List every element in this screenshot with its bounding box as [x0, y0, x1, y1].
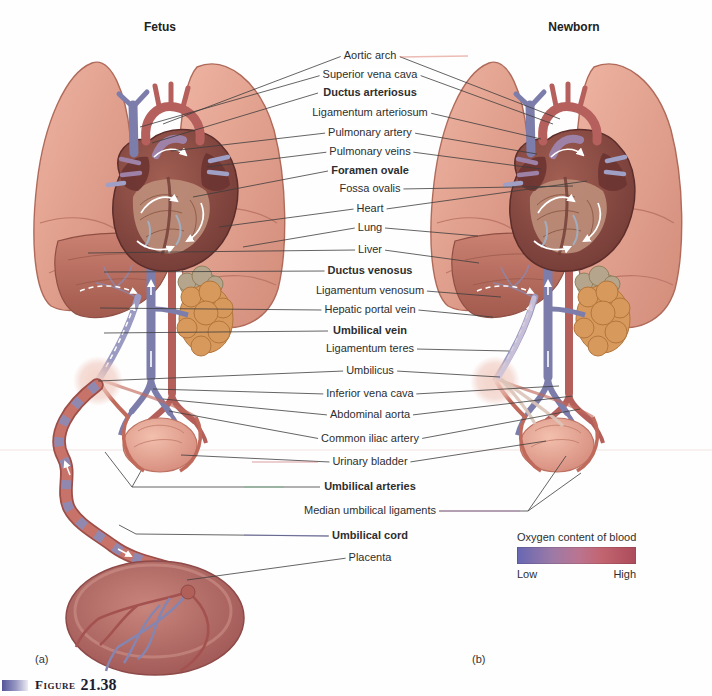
label-umbilical-arteries: Umbilical arteries — [321, 480, 419, 493]
label-urinary-bladder: Urinary bladder — [329, 455, 410, 468]
legend-gradient-bar — [517, 547, 636, 564]
label-umbilical-vein: Umbilical vein — [330, 324, 410, 337]
figure-caption-swatch — [2, 680, 28, 691]
label-superior-vena-cava: Superior vena cava — [320, 68, 421, 81]
label-lung: Lung — [355, 221, 385, 234]
legend-title: Oxygen content of blood — [517, 531, 636, 543]
label-abdominal-aorta: Abdominal aorta — [327, 408, 413, 421]
label-ductus-venosus: Ductus venosus — [325, 264, 416, 277]
newborn-illustration — [431, 62, 682, 472]
legend-low-label: Low — [517, 568, 537, 580]
subfigure-caption-b: (b) — [472, 653, 485, 665]
label-median-umbilical-ligaments: Median umbilical ligaments — [301, 504, 439, 517]
placenta — [66, 561, 244, 675]
figure-caption: Figure 21.38 — [2, 676, 116, 694]
figure-caption-number: 21.38 — [80, 676, 116, 694]
figure-page: Fetus Newborn — [0, 0, 712, 696]
label-umbilical-cord: Umbilical cord — [329, 529, 411, 542]
subfigure-caption-a: (a) — [35, 653, 48, 665]
label-fossa-ovalis: Fossa ovalis — [336, 182, 403, 195]
label-common-iliac-artery: Common iliac artery — [318, 432, 422, 445]
label-placenta: Placenta — [346, 551, 395, 564]
label-liver: Liver — [355, 243, 385, 256]
label-ligamentum-arteriosum: Ligamentum arteriosum — [309, 106, 431, 119]
panel-title-newborn: Newborn — [548, 20, 599, 34]
oxygen-legend: Oxygen content of blood Low High — [517, 531, 636, 580]
label-pulmonary-veins: Pulmonary veins — [326, 145, 413, 158]
fetus-illustration — [34, 62, 285, 675]
label-ductus-arteriosus: Ductus arteriosus — [320, 86, 420, 99]
label-hepatic-portal-vein: Hepatic portal vein — [321, 303, 418, 316]
label-pulmonary-artery: Pulmonary artery — [325, 126, 415, 139]
legend-high-label: High — [613, 568, 636, 580]
label-ligamentum-venosum: Ligamentum venosum — [313, 284, 427, 297]
label-ligamentum-teres: Ligamentum teres — [323, 342, 417, 355]
label-inferior-vena-cava: Inferior vena cava — [323, 387, 416, 400]
label-heart: Heart — [354, 202, 387, 215]
label-umbilicus: Umbilicus — [343, 364, 397, 377]
figure-caption-word: Figure — [35, 677, 75, 693]
label-aortic-arch: Aortic arch — [341, 49, 400, 62]
panel-title-fetus: Fetus — [144, 20, 176, 34]
label-foramen-ovale: Foramen ovale — [328, 164, 412, 177]
